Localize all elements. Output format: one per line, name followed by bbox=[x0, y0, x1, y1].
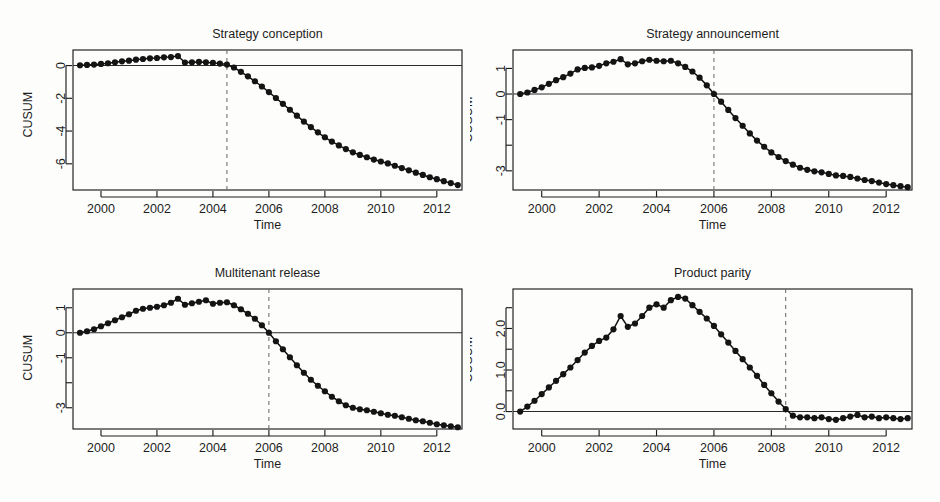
cusum-data-point bbox=[133, 57, 139, 63]
x-axis-tick-label: 2006 bbox=[255, 441, 283, 455]
cusum-data-point bbox=[833, 172, 839, 178]
x-axis-title: Time bbox=[254, 218, 281, 232]
cusum-data-point bbox=[119, 314, 125, 320]
cusum-data-point bbox=[245, 73, 251, 79]
cusum-data-point bbox=[768, 149, 774, 155]
cusum-data-point bbox=[399, 165, 405, 171]
cusum-data-point bbox=[610, 59, 616, 65]
cusum-data-point bbox=[315, 129, 321, 135]
cusum-data-point bbox=[182, 302, 188, 308]
cusum-data-point bbox=[238, 306, 244, 312]
chart-multitenant-release: Multitenant release10-1-3CUSUM2000200220… bbox=[0, 251, 470, 502]
cusum-data-point bbox=[224, 299, 230, 305]
cusum-data-point bbox=[427, 174, 433, 180]
cusum-data-point bbox=[732, 115, 738, 121]
cusum-data-point bbox=[441, 422, 447, 428]
cusum-data-point bbox=[574, 357, 580, 363]
cusum-data-point bbox=[661, 58, 667, 64]
cusum-data-point bbox=[140, 56, 146, 62]
cusum-data-point bbox=[126, 58, 132, 64]
cusum-data-point bbox=[161, 302, 167, 308]
cusum-data-point bbox=[203, 297, 209, 303]
cusum-data-point bbox=[610, 326, 616, 332]
cusum-data-point bbox=[675, 60, 681, 66]
cusum-data-point bbox=[890, 415, 896, 421]
cusum-data-point bbox=[378, 158, 384, 164]
cusum-data-point bbox=[336, 398, 342, 404]
cusum-data-point bbox=[539, 84, 545, 90]
cusum-data-point bbox=[322, 134, 328, 140]
cusum-data-point bbox=[308, 377, 314, 383]
cusum-data-point bbox=[189, 59, 195, 65]
cusum-data-point bbox=[406, 167, 412, 173]
cusum-data-point bbox=[517, 408, 523, 414]
cusum-data-point bbox=[133, 308, 139, 314]
cusum-data-point bbox=[531, 398, 537, 404]
x-axis-tick-label: 2004 bbox=[199, 441, 227, 455]
cusum-data-point bbox=[718, 331, 724, 337]
cusum-data-point bbox=[287, 354, 293, 360]
cusum-data-point bbox=[790, 413, 796, 419]
x-axis-tick-label: 2002 bbox=[143, 441, 171, 455]
cusum-data-point bbox=[553, 378, 559, 384]
cusum-data-point bbox=[517, 91, 523, 97]
cusum-data-point bbox=[378, 410, 384, 416]
y-axis-title: CUSUM bbox=[21, 335, 35, 381]
x-axis-tick-label: 2010 bbox=[815, 441, 843, 455]
cusum-data-point bbox=[343, 146, 349, 152]
cusum-data-point bbox=[77, 62, 83, 68]
cusum-data-point bbox=[818, 169, 824, 175]
cusum-data-point bbox=[357, 152, 363, 158]
cusum-data-point bbox=[567, 364, 573, 370]
cusum-data-point bbox=[182, 60, 188, 66]
cusum-data-point bbox=[273, 95, 279, 101]
cusum-data-point bbox=[603, 335, 609, 341]
cusum-data-point bbox=[231, 302, 237, 308]
cusum-data-point bbox=[761, 382, 767, 388]
cusum-data-point bbox=[364, 154, 370, 160]
y-axis-tick-label: -3 bbox=[54, 402, 68, 413]
cusum-data-point bbox=[818, 414, 824, 420]
x-axis-title: Time bbox=[254, 457, 281, 471]
cusum-data-point bbox=[883, 414, 889, 420]
cusum-data-point bbox=[854, 175, 860, 181]
cusum-data-point bbox=[596, 63, 602, 69]
chart-strategy-announcement: Strategy announcement10-1-3CUSUM20002002… bbox=[470, 0, 940, 251]
cusum-data-point bbox=[661, 305, 667, 311]
y-axis-tick-label: 1 bbox=[54, 304, 68, 311]
cusum-data-point bbox=[112, 317, 118, 323]
cusum-data-point bbox=[112, 59, 118, 65]
x-axis-tick-label: 2002 bbox=[143, 202, 171, 216]
cusum-data-point bbox=[175, 53, 181, 59]
cusum-data-point bbox=[147, 55, 153, 61]
cusum-data-point bbox=[682, 64, 688, 70]
panel-title: Strategy announcement bbox=[646, 27, 779, 41]
cusum-data-point bbox=[273, 338, 279, 344]
cusum-data-point bbox=[266, 330, 272, 336]
x-axis-tick-label: 2012 bbox=[872, 441, 900, 455]
x-axis-tick-label: 2000 bbox=[528, 441, 556, 455]
cusum-data-point bbox=[259, 322, 265, 328]
y-axis-tick-label: -1 bbox=[54, 352, 68, 363]
cusum-data-point bbox=[653, 301, 659, 307]
cusum-data-point bbox=[639, 313, 645, 319]
cusum-data-point bbox=[336, 142, 342, 148]
cusum-data-point bbox=[126, 311, 132, 317]
cusum-data-point bbox=[392, 163, 398, 169]
cusum-data-point bbox=[653, 58, 659, 64]
cusum-data-point bbox=[217, 60, 223, 66]
cusum-data-point bbox=[266, 89, 272, 95]
cusum-data-point bbox=[740, 356, 746, 362]
cusum-data-point bbox=[689, 68, 695, 74]
cusum-data-point bbox=[385, 412, 391, 418]
cusum-data-point bbox=[811, 415, 817, 421]
cusum-data-point bbox=[747, 130, 753, 136]
cusum-data-point bbox=[448, 423, 454, 429]
x-axis-title: Time bbox=[699, 457, 726, 471]
cusum-data-point bbox=[210, 301, 216, 307]
x-axis-tick-label: 2006 bbox=[700, 441, 728, 455]
cusum-data-point bbox=[203, 59, 209, 65]
cusum-data-point bbox=[883, 181, 889, 187]
cusum-data-point bbox=[329, 394, 335, 400]
cusum-data-point bbox=[420, 418, 426, 424]
